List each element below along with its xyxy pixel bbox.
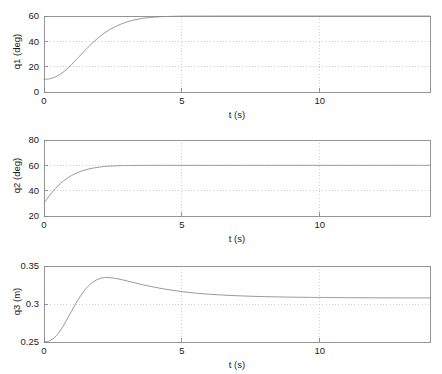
x-tick-label: 10	[314, 219, 325, 230]
y-tick-label: 0.35	[21, 260, 40, 271]
x-axis-label-q2: t (s)	[177, 233, 297, 244]
x-axis-label-q3: t (s)	[177, 359, 297, 370]
x-tick-label: 0	[41, 219, 46, 230]
y-tick-label: 40	[28, 185, 39, 196]
x-tick-label: 0	[41, 345, 46, 356]
x-tick-label: 0	[41, 95, 46, 106]
y-tick-label: 20	[28, 210, 39, 221]
subplot-q2: q2 (deg) t (s) 204060800510	[0, 126, 442, 244]
x-tick-label: 10	[314, 345, 325, 356]
y-tick-label: 80	[28, 134, 39, 145]
y-tick-label: 20	[28, 61, 39, 72]
figure-canvas: q1 (deg) t (s) 02040600510 q2 (deg) t (s…	[0, 0, 442, 374]
subplot-q3: q3 (m) t (s) 0.250.30.350510	[0, 252, 442, 370]
y-tick-label: 60	[28, 10, 39, 21]
subplot-q1: q1 (deg) t (s) 02040600510	[0, 2, 442, 120]
y-axis-label-q3: q3 (m)	[0, 296, 46, 307]
x-tick-label: 5	[179, 219, 184, 230]
y-axis-label-q2: q2 (deg)	[0, 170, 46, 181]
x-tick-label: 10	[314, 95, 325, 106]
x-tick-label: 5	[179, 95, 184, 106]
x-axis-label-q1: t (s)	[177, 109, 297, 120]
y-tick-label: 0	[34, 86, 39, 97]
y-tick-label: 0.25	[21, 336, 40, 347]
y-axis-label-q1: q1 (deg)	[0, 46, 46, 57]
plot-area-q2: 204060800510	[0, 126, 442, 244]
plot-area-q1: 02040600510	[0, 2, 442, 120]
x-tick-label: 5	[179, 345, 184, 356]
plot-area-q3: 0.250.30.350510	[0, 252, 442, 370]
